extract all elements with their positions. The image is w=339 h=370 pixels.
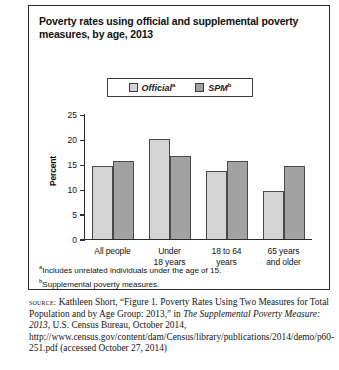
legend-label-official: Officiala [142, 82, 176, 93]
y-tick-label-15: 15 [68, 160, 77, 170]
y-axis-label: Percent [48, 141, 58, 201]
plot-area: Percent 0510152025 [29, 110, 331, 270]
plot-canvas: 0510152025 [84, 114, 312, 240]
footnote-a: aIncludes unrelated individuals under th… [39, 262, 324, 276]
bar-group-under-18 [141, 114, 198, 239]
bar-group-all-people [84, 114, 141, 239]
bar-spm-18-to-64 [227, 161, 248, 238]
footnotes: aIncludes unrelated individuals under th… [39, 262, 324, 290]
y-tick-label-5: 5 [72, 210, 77, 220]
source-note: source: Kathleen Short, “Figure 1. Pover… [29, 297, 332, 355]
chart-legend: Officiala SPMb [107, 78, 253, 97]
bar-group-18-to-64 [198, 114, 255, 239]
legend-swatch-official-icon [129, 83, 138, 92]
y-tick-0 [80, 239, 85, 240]
figure-page: Poverty rates using official and supplem… [0, 0, 339, 370]
source-text-part2: , U.S. Census Bureau, October 2014, http… [29, 320, 334, 353]
bar-official-18-to-64 [206, 171, 227, 238]
bar-official-all-people [92, 166, 113, 238]
x-axis-line [84, 239, 312, 240]
y-tick-label-10: 10 [68, 185, 77, 195]
legend-item-official: Officiala [129, 82, 176, 93]
bar-spm-65-and-older [284, 166, 305, 238]
chart-title: Poverty rates using official and supplem… [39, 15, 317, 41]
footnote-b: bSupplemental poverty measures. [39, 276, 324, 290]
y-tick-label-20: 20 [68, 135, 77, 145]
y-tick-label-25: 25 [68, 110, 77, 120]
bar-spm-under-18 [170, 156, 191, 238]
bar-official-under-18 [149, 139, 170, 239]
source-label: source: [29, 298, 56, 307]
figure-box: Poverty rates using official and supplem… [28, 5, 330, 290]
legend-item-spm: SPMb [195, 82, 231, 93]
legend-label-spm: SPMb [208, 82, 231, 93]
bar-group-65-and-older [255, 114, 312, 239]
bar-spm-all-people [113, 161, 134, 238]
legend-swatch-spm-icon [195, 83, 204, 92]
bar-official-65-and-older [263, 191, 284, 238]
bar-groups [84, 114, 312, 239]
y-tick-label-0: 0 [72, 235, 77, 245]
